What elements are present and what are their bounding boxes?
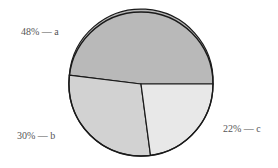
label-b: 30% — b (17, 130, 55, 141)
slice-c (141, 84, 213, 155)
slice-a (69, 9, 213, 84)
label-c: 22% — c (223, 123, 261, 134)
label-a: 48% — a (21, 26, 59, 37)
slice-b (69, 75, 151, 156)
